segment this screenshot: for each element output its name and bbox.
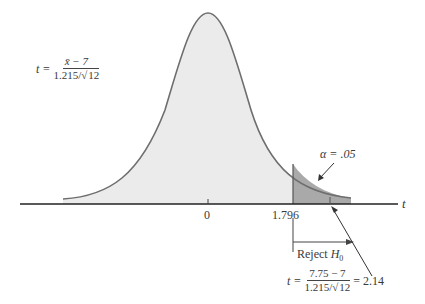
formula-computed-denominator: 1.215/√12 <box>304 281 350 293</box>
formula-general-lhs: t = <box>36 63 50 75</box>
alpha-arrow <box>320 163 334 178</box>
computed-t-arrowhead <box>331 206 338 213</box>
formula-general-numerator: x̄ − 7 <box>63 56 90 69</box>
tick-label-0: 0 <box>204 209 210 221</box>
tick-label-1796: 1.796 <box>272 209 299 221</box>
formula-computed-result: = 2.14 <box>353 275 384 287</box>
formula-general-fraction: x̄ − 7 1.215/√12 <box>53 56 99 81</box>
formula-computed-fraction: 7.75 − 7 1.215/√12 <box>304 268 350 293</box>
alpha-label: α = .05 <box>320 148 355 160</box>
reject-arrowhead <box>346 239 354 245</box>
t-distribution-plot <box>0 0 425 304</box>
formula-computed-lhs: t = <box>287 275 301 287</box>
formula-general-denominator: 1.215/√12 <box>53 69 99 81</box>
reject-h0-label: Reject H0 <box>297 248 343 263</box>
curve-area <box>63 13 351 204</box>
axis-label-t: t <box>402 197 406 210</box>
formula-general: t = x̄ − 7 1.215/√12 <box>36 56 99 81</box>
formula-computed: t = 7.75 − 7 1.215/√12 = 2.14 <box>287 268 384 293</box>
